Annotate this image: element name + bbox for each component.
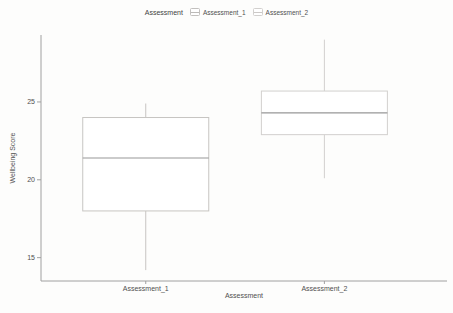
y-tick-label: 15 [27, 254, 35, 261]
y-tick-label: 25 [27, 98, 35, 105]
x-axis-title: Assessment [41, 292, 447, 299]
plot-area: 252015Assessment_1Assessment_2 [0, 0, 453, 313]
y-tick-label: 20 [27, 176, 35, 183]
box [83, 118, 209, 211]
boxplot-figure: Assessment Assessment_1 Assessment_2 Wel… [0, 0, 453, 313]
